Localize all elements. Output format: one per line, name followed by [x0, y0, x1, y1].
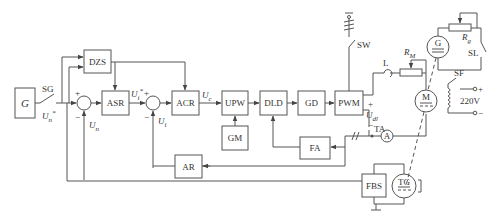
svg-text:−: − — [75, 112, 80, 122]
resistor-Rg: Rg — [449, 13, 477, 45]
svg-text:RM: RM — [403, 47, 417, 60]
svg-text:220V: 220V — [460, 96, 481, 106]
block-GD: GD — [298, 91, 325, 115]
svg-text:ACR: ACR — [176, 98, 195, 108]
block-DLD: DLD — [260, 91, 287, 115]
svg-text:SL: SL — [468, 48, 479, 58]
svg-text:FA: FA — [310, 143, 321, 153]
svg-text:ASR: ASR — [107, 98, 125, 108]
svg-text:GD: GD — [305, 98, 318, 108]
svg-text:+: + — [478, 84, 483, 94]
svg-text:SW: SW — [357, 40, 371, 50]
svg-text:GM: GM — [228, 133, 243, 143]
svg-text:UPW: UPW — [225, 98, 246, 108]
svg-text:Rg: Rg — [461, 32, 472, 45]
svg-text:+: + — [144, 88, 149, 98]
generator-G: G — [427, 36, 449, 58]
switch-SW: SW — [344, 13, 371, 91]
switch-SG: SG Un* — [35, 84, 62, 124]
block-GM: GM — [222, 126, 248, 150]
ammeter-A: A — [381, 130, 393, 142]
field-winding-SF: + − SF 220V — [448, 68, 483, 118]
svg-text:Un*: Un* — [42, 109, 56, 124]
speed-control-diagram: G SG Un* DZS + − Un ASR Ui* + − — [0, 0, 498, 215]
svg-text:Un: Un — [89, 120, 100, 133]
block-ACR: ACR — [172, 91, 199, 115]
svg-text:G: G — [435, 38, 442, 48]
svg-text:A: A — [384, 131, 391, 141]
svg-text:L: L — [383, 58, 389, 68]
svg-text:DZS: DZS — [89, 57, 106, 67]
block-DZS: DZS — [84, 50, 111, 73]
svg-text:−: − — [478, 108, 483, 118]
resistor-RM: RM — [400, 47, 426, 76]
block-AR: AR — [175, 155, 202, 178]
block-ASR: ASR — [102, 91, 129, 115]
svg-text:Ui: Ui — [158, 116, 167, 129]
svg-text:AR: AR — [182, 162, 195, 172]
tachogenerator-TG: TG — [392, 174, 421, 198]
block-UPW: UPW — [222, 91, 248, 115]
svg-text:Uc: Uc — [202, 90, 213, 103]
block-FBS: FBS — [362, 174, 386, 197]
block-G: G — [15, 88, 35, 118]
svg-text:Ui*: Ui* — [131, 87, 143, 102]
svg-text:G: G — [21, 97, 29, 109]
svg-text:+: + — [75, 88, 80, 98]
block-FA: FA — [300, 137, 330, 159]
svg-text:DLD: DLD — [264, 98, 283, 108]
svg-text:FBS: FBS — [366, 181, 382, 191]
svg-text:PWM: PWM — [338, 98, 360, 108]
sum-junction-1: + − — [75, 88, 91, 122]
svg-text:M: M — [422, 92, 430, 102]
svg-text:SG: SG — [42, 84, 54, 94]
svg-text:TG: TG — [398, 177, 410, 187]
svg-text:+: + — [368, 99, 373, 109]
inductor-L: L — [383, 58, 392, 77]
motor-M: M — [415, 90, 437, 112]
block-PWM: PWM — [335, 91, 363, 115]
svg-text:−: − — [144, 112, 149, 122]
